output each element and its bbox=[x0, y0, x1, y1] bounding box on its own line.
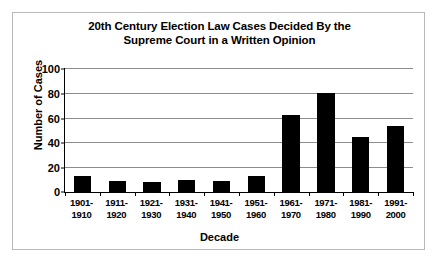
x-tick-label: 1991-2000 bbox=[378, 197, 413, 220]
x-tick-label: 1901-1910 bbox=[64, 197, 99, 220]
x-axis-tick-labels: 1901-19101911-19201921-19301931-19401941… bbox=[64, 197, 413, 220]
x-tick-label-line-2: 1930 bbox=[134, 209, 169, 221]
x-tick-label-line-1: 1901- bbox=[64, 197, 99, 209]
x-tick-mark bbox=[239, 192, 240, 196]
x-tick-label: 1951-1960 bbox=[239, 197, 274, 220]
x-tick-label-line-1: 1921- bbox=[134, 197, 169, 209]
bar bbox=[248, 176, 265, 192]
y-tick-label-80: 80 bbox=[48, 88, 60, 100]
bar-category bbox=[65, 68, 100, 192]
x-tick-label-line-2: 1950 bbox=[204, 209, 239, 221]
bar bbox=[74, 176, 91, 192]
x-tick-label: 1931-1940 bbox=[169, 197, 204, 220]
bar bbox=[387, 126, 404, 192]
x-tick-mark bbox=[169, 192, 170, 196]
plot-area: 020406080100 bbox=[64, 68, 413, 193]
bar-series bbox=[65, 68, 413, 192]
bar-category bbox=[135, 68, 170, 192]
chart-frame: 20th Century Election Law Cases Decided … bbox=[12, 12, 425, 250]
x-tick-label: 1911-1920 bbox=[99, 197, 134, 220]
x-tick-label-line-2: 1940 bbox=[169, 209, 204, 221]
bar bbox=[352, 137, 369, 192]
bar bbox=[143, 182, 160, 192]
bar-category bbox=[169, 68, 204, 192]
x-tick-label-line-1: 1961- bbox=[273, 197, 308, 209]
x-tick-mark bbox=[65, 192, 66, 196]
bar-category bbox=[204, 68, 239, 192]
chart-title-line-2: Supreme Court in a Written Opinion bbox=[13, 33, 426, 47]
bar-category bbox=[100, 68, 135, 192]
x-tick-label: 1921-1930 bbox=[134, 197, 169, 220]
bar-category bbox=[378, 68, 413, 192]
y-tick-label-20: 20 bbox=[48, 162, 60, 174]
x-tick-label: 1961-1970 bbox=[273, 197, 308, 220]
chart-title-line-1: 20th Century Election Law Cases Decided … bbox=[13, 19, 426, 33]
bar bbox=[109, 181, 126, 192]
x-tick-label-line-2: 1910 bbox=[64, 209, 99, 221]
x-tick-label-line-1: 1951- bbox=[239, 197, 274, 209]
bar-category bbox=[309, 68, 344, 192]
y-tick-label-0: 0 bbox=[54, 186, 60, 198]
x-tick-label: 1981-1990 bbox=[343, 197, 378, 220]
x-tick-label-line-1: 1991- bbox=[378, 197, 413, 209]
x-tick-mark bbox=[309, 192, 310, 196]
x-tick-mark bbox=[274, 192, 275, 196]
x-tick-label-line-2: 1990 bbox=[343, 209, 378, 221]
x-tick-label-line-2: 1960 bbox=[239, 209, 274, 221]
x-tick-label-line-1: 1981- bbox=[343, 197, 378, 209]
x-tick-label-line-1: 1971- bbox=[308, 197, 343, 209]
x-tick-mark bbox=[100, 192, 101, 196]
bar-category bbox=[239, 68, 274, 192]
x-tick-mark bbox=[135, 192, 136, 196]
x-tick-label-line-2: 1980 bbox=[308, 209, 343, 221]
x-axis-title: Decade bbox=[13, 231, 426, 243]
x-tick-label: 1941-1950 bbox=[204, 197, 239, 220]
bar bbox=[178, 180, 195, 192]
x-tick-label-line-2: 1920 bbox=[99, 209, 134, 221]
bar bbox=[317, 93, 334, 192]
x-tick-label-line-1: 1941- bbox=[204, 197, 239, 209]
y-tick-label-60: 60 bbox=[48, 113, 60, 125]
x-tick-mark-end bbox=[413, 192, 414, 196]
x-tick-label-line-2: 2000 bbox=[378, 209, 413, 221]
y-tick-label-40: 40 bbox=[48, 137, 60, 149]
x-tick-mark bbox=[378, 192, 379, 196]
x-tick-label-line-1: 1931- bbox=[169, 197, 204, 209]
bar-category bbox=[343, 68, 378, 192]
x-tick-label: 1971-1980 bbox=[308, 197, 343, 220]
bar bbox=[282, 115, 299, 192]
bar bbox=[213, 181, 230, 192]
x-tick-mark bbox=[343, 192, 344, 196]
bar-category bbox=[274, 68, 309, 192]
x-tick-label-line-1: 1911- bbox=[99, 197, 134, 209]
x-tick-mark bbox=[204, 192, 205, 196]
chart-title: 20th Century Election Law Cases Decided … bbox=[13, 19, 426, 47]
x-tick-label-line-2: 1970 bbox=[273, 209, 308, 221]
y-tick-label-100: 100 bbox=[42, 63, 60, 75]
